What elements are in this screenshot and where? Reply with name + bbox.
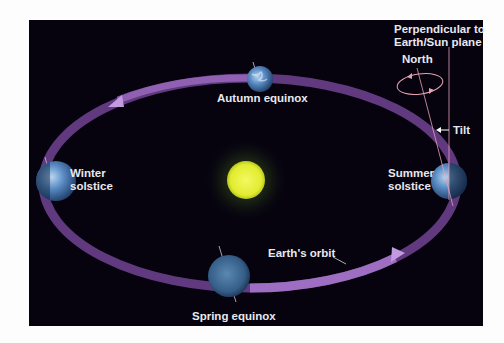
sun bbox=[227, 161, 265, 199]
label-tilt: Tilt bbox=[453, 124, 470, 137]
label-north: North bbox=[402, 53, 433, 66]
label-perpendicular-2: Earth/Sun plane bbox=[394, 36, 482, 49]
label-summer-solstice-1: Summer bbox=[388, 167, 434, 180]
earth-spring bbox=[208, 255, 250, 297]
orbit-highlight-front bbox=[250, 258, 395, 288]
label-autumn-equinox: Autumn equinox bbox=[217, 92, 308, 105]
label-earths-orbit: Earth's orbit bbox=[268, 247, 335, 260]
label-summer-solstice-2: solstice bbox=[388, 180, 431, 193]
rotation-arrow-top bbox=[407, 73, 412, 79]
label-perpendicular-1: Perpendicular to bbox=[394, 23, 485, 36]
label-spring-equinox: Spring equinox bbox=[192, 310, 276, 323]
rotation-ellipse bbox=[396, 71, 444, 97]
label-winter-solstice-2: solstice bbox=[70, 180, 113, 193]
label-winter-solstice-1: Winter bbox=[70, 167, 106, 180]
